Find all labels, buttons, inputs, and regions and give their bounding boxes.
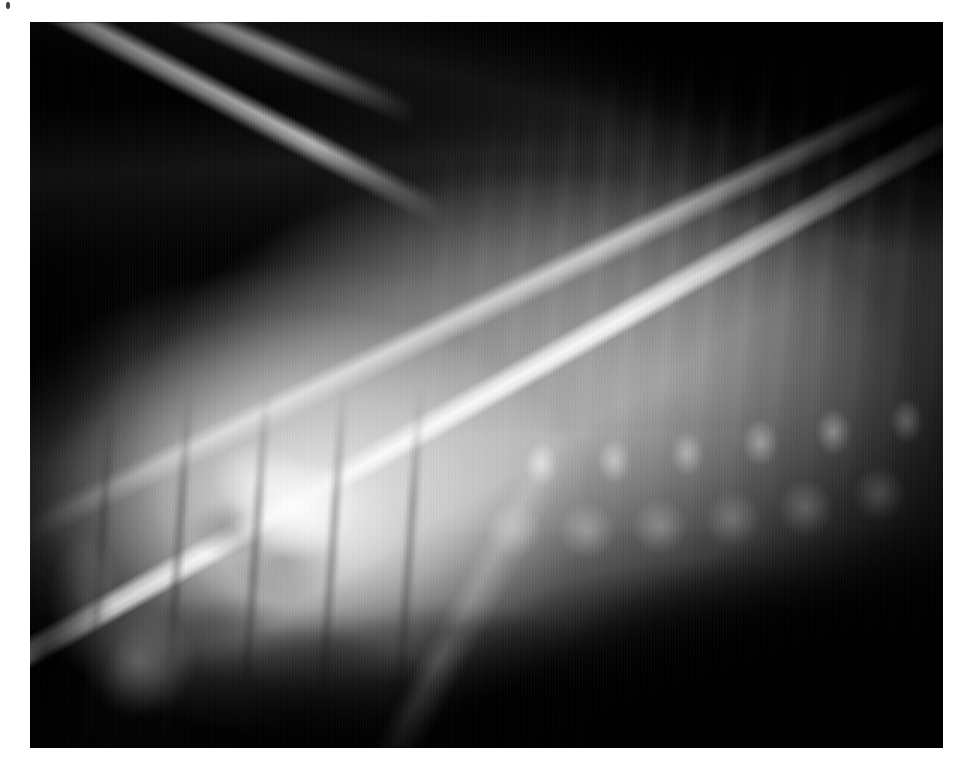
radiograph-image[interactable]: Grayscale lateral radiograph of the cerv… xyxy=(30,22,943,748)
page-canvas: Grayscale lateral radiograph of the cerv… xyxy=(0,0,963,771)
vignette xyxy=(30,22,943,748)
dark-speck-artifact xyxy=(6,2,10,9)
